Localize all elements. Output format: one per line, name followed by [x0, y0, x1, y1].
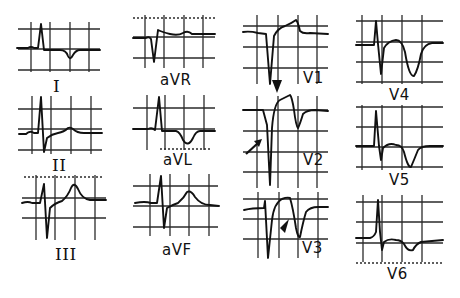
lead-aVL-panel [133, 95, 215, 150]
lead-V4-grid [356, 15, 443, 84]
lead-aVF-trace [135, 176, 219, 228]
lead-aVR-grid [133, 15, 215, 68]
lead-aVF-panel [133, 174, 219, 236]
lead-II-label: II [52, 155, 66, 175]
lead-V6-label: V6 [387, 265, 408, 283]
lead-III-grid [22, 175, 106, 240]
lead-III-trace [22, 184, 106, 238]
lead-V5-panel [356, 105, 443, 170]
lead-aVF-label: aVF [162, 241, 192, 259]
lead-aVR-label: aVR [160, 71, 191, 89]
lead-V2-label: V2 [303, 151, 324, 169]
lead-V6-grid [356, 195, 443, 263]
lead-V2-panel [243, 95, 328, 188]
lead-V4-panel [356, 15, 443, 84]
lead-II-grid [18, 96, 102, 154]
lead-I-panel [17, 22, 100, 72]
arrowhead-v3-icon [280, 219, 289, 233]
lead-V4-label: V4 [389, 86, 410, 104]
lead-V5-trace [356, 111, 443, 167]
lead-V5-grid [356, 105, 443, 170]
lead-V3-label: V3 [302, 239, 323, 257]
lead-V1-label: V1 [303, 69, 324, 87]
lead-II-panel [18, 96, 102, 154]
arrowhead-v1-icon [272, 80, 282, 93]
lead-aVR-panel [133, 15, 215, 68]
lead-aVL-label: aVL [163, 151, 192, 169]
lead-III-panel [22, 175, 106, 240]
lead-V5-label: V5 [389, 171, 410, 189]
lead-III-label: III [55, 244, 77, 264]
lead-aVL-grid [133, 95, 215, 150]
lead-V4-trace [356, 21, 443, 76]
lead-aVL-trace [133, 97, 215, 144]
lead-I-label: I [53, 76, 60, 96]
lead-V6-panel [356, 195, 443, 263]
